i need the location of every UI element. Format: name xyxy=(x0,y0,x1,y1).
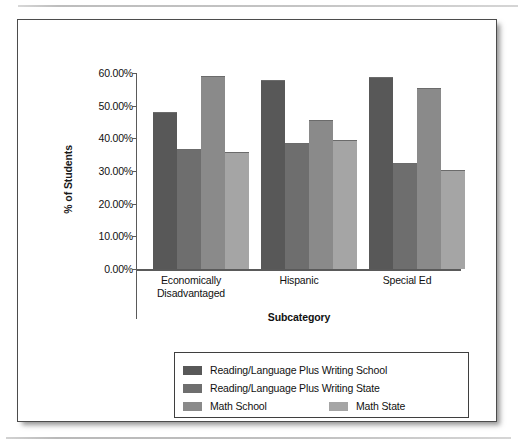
x-axis-line xyxy=(136,269,461,271)
bar[interactable] xyxy=(225,152,249,269)
bar[interactable] xyxy=(369,77,393,269)
y-tick-label: 20.00% xyxy=(99,198,133,210)
x-category-label-line: Disadvantaged xyxy=(137,287,245,300)
y-tick-label: 60.00% xyxy=(99,67,133,79)
y-tick-label: 50.00% xyxy=(99,100,133,112)
legend-label: Reading/Language Plus Writing School xyxy=(210,364,387,376)
legend-row: Reading/Language Plus Writing State xyxy=(183,380,468,396)
legend-item[interactable]: Math School xyxy=(183,400,267,412)
x-axis-category-labels: EconomicallyDisadvantagedHispanicSpecial… xyxy=(137,274,477,308)
legend-item[interactable]: Reading/Language Plus Writing School xyxy=(183,364,387,376)
legend-label: Math State xyxy=(356,400,405,412)
bar-group xyxy=(369,73,465,269)
y-tick-label: 10.00% xyxy=(99,230,133,242)
bar[interactable] xyxy=(285,143,309,269)
bar[interactable] xyxy=(393,163,417,269)
y-axis-tick-labels: 0.00%10.00%20.00%30.00%40.00%50.00%60.00… xyxy=(81,73,133,271)
x-category-label-line: Economically xyxy=(137,274,245,287)
bar[interactable] xyxy=(333,140,357,269)
legend-row: Reading/Language Plus Writing School xyxy=(183,362,468,378)
bar-group xyxy=(261,73,357,269)
x-category-label-line: Special Ed xyxy=(353,274,461,287)
bar-series-container xyxy=(137,73,461,269)
bar[interactable] xyxy=(441,170,465,269)
legend-swatch-icon xyxy=(329,402,348,411)
x-category-label: Hispanic xyxy=(245,274,353,287)
y-tick-label: 40.00% xyxy=(99,132,133,144)
x-category-label: Special Ed xyxy=(353,274,461,287)
bar[interactable] xyxy=(417,88,441,269)
bar[interactable] xyxy=(261,80,285,269)
bar[interactable] xyxy=(177,149,201,269)
x-axis-title: Subcategory xyxy=(137,311,461,323)
x-category-label-line: Hispanic xyxy=(245,274,353,287)
y-tick-mark xyxy=(132,269,137,270)
y-tick-label: 30.00% xyxy=(99,165,133,177)
x-category-label: EconomicallyDisadvantaged xyxy=(137,274,245,299)
page-rule-top xyxy=(18,5,518,7)
bar[interactable] xyxy=(309,120,333,269)
page-rule-bottom xyxy=(6,437,511,439)
legend-label: Math School xyxy=(210,400,267,412)
legend-swatch-icon xyxy=(183,402,202,411)
legend-swatch-icon xyxy=(183,366,202,375)
chart-legend: Reading/Language Plus Writing SchoolRead… xyxy=(174,352,469,418)
y-axis-title: % of Students xyxy=(62,145,82,214)
bar[interactable] xyxy=(153,112,177,269)
bar[interactable] xyxy=(201,76,225,269)
chart-figure-frame: % of Students 0.00%10.00%20.00%30.00%40.… xyxy=(17,19,497,422)
legend-swatch-icon xyxy=(183,384,202,393)
legend-item[interactable]: Reading/Language Plus Writing State xyxy=(183,382,380,394)
bar-group xyxy=(153,73,249,269)
legend-item[interactable]: Math State xyxy=(329,400,405,412)
legend-label: Reading/Language Plus Writing State xyxy=(210,382,380,394)
chart-plot-area: % of Students 0.00%10.00%20.00%30.00%40.… xyxy=(18,20,496,421)
legend-row: Math SchoolMath State xyxy=(183,398,468,414)
y-tick-label: 0.00% xyxy=(104,263,133,275)
